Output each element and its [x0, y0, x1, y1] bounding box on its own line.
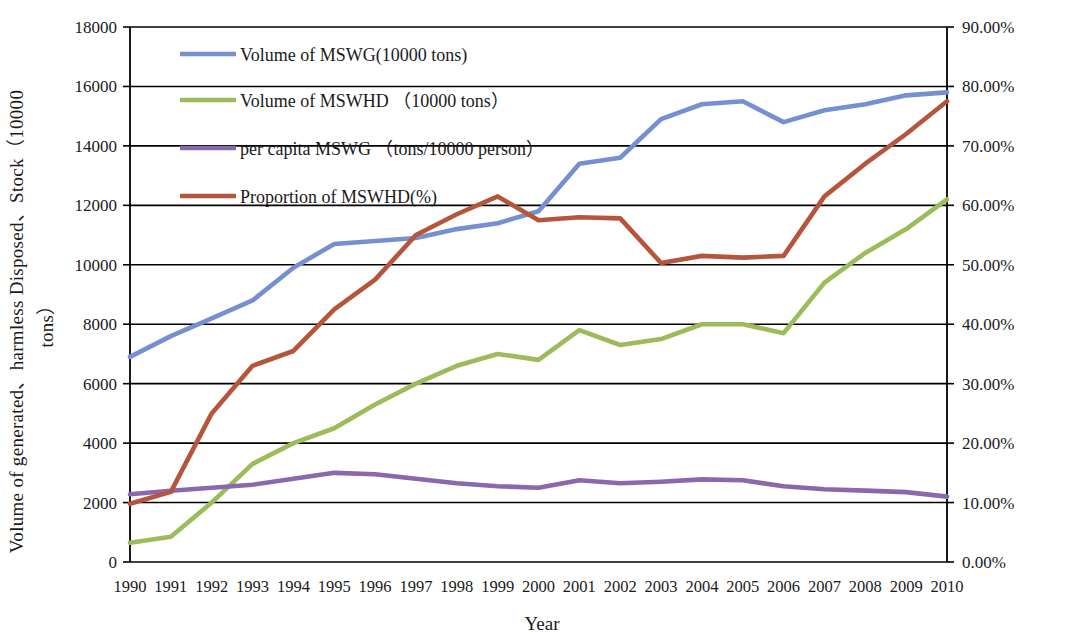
- left-axis-tick-label: 8000: [83, 315, 117, 334]
- right-axis-tick-label: 80.00%: [962, 77, 1014, 96]
- x-axis-tick-label: 1990: [114, 577, 147, 596]
- legend-label-4: Proportion of MSWHD(%): [240, 187, 437, 208]
- chart-container: Volume of generated、harmless Disposed、St…: [0, 0, 1084, 643]
- x-axis-tick-label: 2008: [849, 577, 882, 596]
- right-axis-tick-label: 90.00%: [962, 18, 1014, 37]
- x-axis-tick-label: 1994: [277, 577, 310, 596]
- left-axis-tick-label: 0: [109, 553, 118, 572]
- legend-label-3: per capita MSWG （tons/10000 person）: [240, 139, 544, 159]
- x-axis-tick-label: 2010: [931, 577, 964, 596]
- x-axis-tick-label: 2007: [808, 577, 841, 596]
- left-axis-tick-label: 12000: [75, 196, 118, 215]
- x-axis-tick-label: 2000: [522, 577, 555, 596]
- series-line-1: [130, 92, 947, 357]
- x-axis-tick-label: 1992: [195, 577, 228, 596]
- right-axis-tick-label: 70.00%: [962, 137, 1014, 156]
- legend-label-1: Volume of MSWG(10000 tons): [240, 45, 467, 66]
- x-axis-tick-label: 1999: [481, 577, 514, 596]
- right-axis-tick-label: 30.00%: [962, 375, 1014, 394]
- x-axis-tick-label: 2006: [767, 577, 800, 596]
- right-axis-tick-label: 50.00%: [962, 256, 1014, 275]
- x-axis-tick-label: 2001: [563, 577, 596, 596]
- left-axis-tick-label: 16000: [75, 77, 118, 96]
- left-axis-tick-label: 6000: [83, 375, 117, 394]
- x-axis-tick-label: 1998: [440, 577, 473, 596]
- x-axis-tick-label: 2003: [645, 577, 678, 596]
- right-axis-tick-label: 10.00%: [962, 494, 1014, 513]
- left-axis-tick-label: 18000: [75, 18, 118, 37]
- left-axis-tick-label: 4000: [83, 434, 117, 453]
- right-axis-tick-label: 20.00%: [962, 434, 1014, 453]
- left-axis-tick-label: 14000: [75, 137, 118, 156]
- right-axis-tick-label: 0.00%: [962, 553, 1006, 572]
- x-axis-tick-label: 2005: [726, 577, 759, 596]
- x-axis-tick-label: 2009: [890, 577, 923, 596]
- x-axis-tick-label: 1993: [236, 577, 269, 596]
- series-line-3: [130, 473, 947, 497]
- x-axis-tick-label: 2002: [604, 577, 637, 596]
- x-axis-tick-label: 2004: [685, 577, 718, 596]
- x-axis-tick-label: 1995: [318, 577, 351, 596]
- x-axis-tick-label: 1991: [154, 577, 187, 596]
- legend-label-2: Volume of MSWHD （10000 tons）: [240, 91, 509, 111]
- right-axis-tick-label: 40.00%: [962, 315, 1014, 334]
- left-axis-tick-label: 10000: [75, 256, 118, 275]
- x-axis-tick-label: 1996: [359, 577, 392, 596]
- x-axis-tick-label: 1997: [399, 577, 432, 596]
- right-axis-tick-label: 60.00%: [962, 196, 1014, 215]
- left-axis-tick-label: 2000: [83, 494, 117, 513]
- plot-svg: 0200040006000800010000120001400016000180…: [0, 0, 1084, 643]
